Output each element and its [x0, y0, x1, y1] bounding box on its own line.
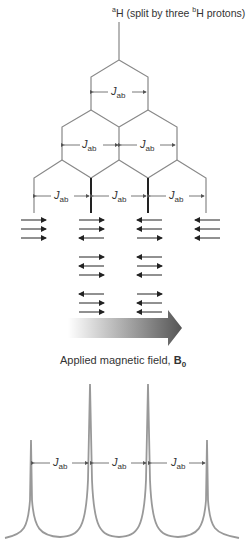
- coupling-label: Jab: [52, 456, 68, 471]
- coupling-label: Jab: [81, 138, 97, 153]
- coupling-label: Jab: [139, 138, 155, 153]
- coupling-label: Jab: [111, 189, 127, 204]
- magnetic-field-arrow: [68, 310, 182, 346]
- diagram-graphics: [0, 0, 249, 560]
- coupling-label: Jab: [168, 189, 184, 204]
- title-label: aH (split by three bH protons): [112, 6, 245, 19]
- field-label: Applied magnetic field, B0: [60, 354, 186, 369]
- nmr-splitting-diagram: aH (split by three bH protons) Jab Jab J…: [0, 0, 249, 560]
- coupling-label: Jab: [170, 456, 186, 471]
- spin-state-arrows: [21, 220, 220, 312]
- splitting-tree: [34, 22, 206, 213]
- coupling-label: Jab: [53, 189, 69, 204]
- coupling-label: Jab: [111, 456, 127, 471]
- coupling-label: Jab: [110, 85, 126, 100]
- coupling-arrows: [36, 92, 204, 196]
